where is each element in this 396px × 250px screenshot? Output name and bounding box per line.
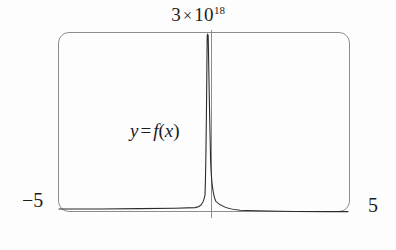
peak-value-label: 3×1018 [0, 5, 396, 24]
function-plot-figure: 3×1018 y=f(x) −5 5 [0, 0, 396, 250]
peak-exponent: 18 [214, 4, 225, 16]
curve-equation-label: y=f(x) [130, 121, 180, 140]
multiplication-sign: × [181, 7, 194, 24]
x-min-label: −5 [22, 190, 43, 210]
label-equals: = [138, 120, 153, 141]
vertical-axis-line [211, 30, 212, 218]
label-paren-close: ) [173, 120, 179, 141]
x-max-label: 5 [368, 195, 378, 215]
plot-frame [58, 32, 350, 212]
peak-base: 10 [194, 4, 214, 25]
peak-mantissa: 3 [171, 4, 181, 25]
label-x: x [165, 120, 173, 141]
